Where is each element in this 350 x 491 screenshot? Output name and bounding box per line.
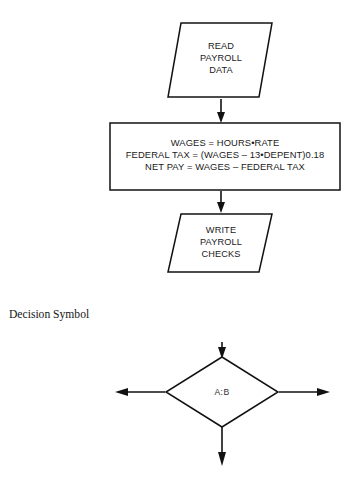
formula-line-wages: WAGES = HOURS•RATE [171, 137, 279, 148]
formula-line-federal-tax: FEDERAL TAX = (WAGES – 13•DEPENT)0.18 [126, 149, 324, 160]
node-write-payroll-checks-line-3: CHECKS [201, 249, 240, 259]
connector-decision-branch-right [279, 388, 330, 396]
node-read-payroll-data-line-1: READ [208, 41, 234, 51]
arrow-down-icon [217, 202, 225, 213]
flowchart-canvas: READ PAYROLL DATA WAGES = HOURS•RATE FED… [0, 0, 350, 491]
arrow-down-icon [217, 112, 225, 123]
decision-symbol-caption: Decision Symbol [9, 308, 89, 321]
node-write-payroll-checks-line-1: WRITE [206, 225, 236, 235]
node-write-payroll-checks-line-2: PAYROLL [200, 237, 242, 247]
node-read-payroll-data-line-2: PAYROLL [200, 53, 242, 63]
connector-read-to-process [217, 99, 225, 123]
node-payroll-calculations[interactable]: WAGES = HOURS•RATE FEDERAL TAX = (WAGES … [110, 123, 340, 190]
formula-line-net-pay: NET PAY = WAGES – FEDERAL TAX [145, 161, 305, 172]
connector-process-to-write [217, 191, 225, 213]
connector-decision-branch-down [218, 426, 226, 466]
node-read-payroll-data-line-3: DATA [209, 65, 233, 75]
connector-decision-branch-left [115, 388, 165, 396]
node-read-payroll-data[interactable]: READ PAYROLL DATA [168, 23, 272, 97]
arrow-right-icon [317, 388, 330, 396]
arrow-down-icon [218, 452, 226, 466]
node-decision-ab[interactable]: A:B [166, 357, 278, 427]
node-decision-ab-label: A:B [214, 387, 229, 397]
flowchart-page: READ PAYROLL DATA WAGES = HOURS•RATE FED… [0, 0, 350, 491]
arrow-left-icon [115, 388, 128, 396]
node-write-payroll-checks[interactable]: WRITE PAYROLL CHECKS [168, 214, 272, 272]
